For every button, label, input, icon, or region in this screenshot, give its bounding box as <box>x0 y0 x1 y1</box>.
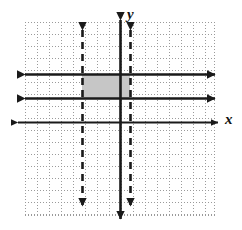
x-axis-label: x <box>225 112 233 127</box>
y-axis-label: y <box>127 7 134 22</box>
coordinate-plane-figure: y x <box>0 0 242 230</box>
graph-canvas <box>0 0 242 230</box>
shaded-solution-region <box>82 74 130 98</box>
